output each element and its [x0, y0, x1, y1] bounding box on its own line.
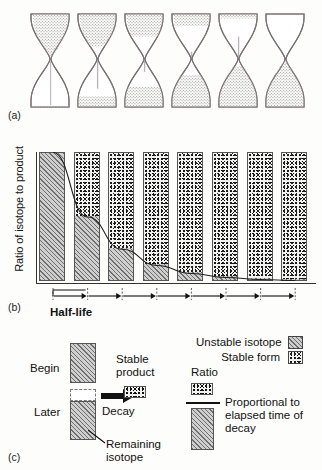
bar-halflife-5 [212, 152, 238, 281]
bar-halflife-3 [143, 152, 169, 281]
hourglass-5 [215, 12, 261, 109]
bar-halflife-4 [177, 152, 203, 281]
hourglass-2 [74, 12, 120, 109]
ratio-fraction-bar [186, 402, 220, 404]
stable-product-block [124, 386, 146, 398]
bar-segment-stable [282, 153, 306, 281]
bar-segment-stable [75, 153, 99, 218]
bar-segment-isotope [75, 216, 99, 281]
bar-segment-stable [213, 153, 237, 278]
ratio-label: Ratio [191, 366, 218, 378]
bar-segment-isotope [40, 152, 64, 280]
later-decayed-ghost-block [70, 389, 96, 401]
proportional-label-line2: elapsed time of [225, 409, 321, 422]
half-life-axis [36, 288, 318, 304]
panel-b-bar-chart: Ratio of isotope to product Half-life (b… [0, 130, 322, 320]
bar-segment-isotope [144, 264, 168, 280]
ratio-denominator-isotope-block [191, 408, 214, 450]
bar-halflife-0 [39, 152, 65, 281]
hourglass-3 [121, 12, 167, 109]
begin-label: Begin [30, 362, 59, 374]
panel-c-ratio-explainer: Begin Later Decay Stable product Remaini… [0, 352, 322, 470]
legend-swatch-unstable-isotope [288, 336, 303, 349]
remaining-isotope-label-line2: isotope [106, 451, 143, 463]
proportional-label-line3: decay [225, 422, 321, 435]
panel-a-hourglasses: (a) [0, 0, 322, 130]
bar-segment-isotope [178, 272, 202, 280]
bar-segment-isotope [109, 248, 133, 280]
hourglass-1 [27, 12, 73, 109]
later-label: Later [34, 406, 60, 418]
bar-halflife-7 [281, 152, 307, 281]
x-axis-line [36, 283, 316, 284]
panel-b-tag: (b) [8, 302, 21, 313]
hourglass-6 [262, 12, 308, 109]
legend-label-unstable: Unstable isotope [196, 336, 280, 348]
remaining-isotope-label-line1: Remaining [106, 438, 161, 450]
bar-segment-stable [178, 153, 202, 274]
half-life-label: Half-life [50, 306, 92, 318]
decay-label: Decay [102, 405, 135, 417]
bar-halflife-1 [74, 152, 100, 281]
bar-segment-stable [109, 153, 133, 250]
stable-product-label-line1: Stable [116, 353, 149, 365]
panel-c-tag: (c) [8, 452, 20, 463]
hourglass-4 [168, 12, 214, 109]
bar-segment-isotope [282, 279, 306, 280]
bar-segment-stable [248, 153, 272, 280]
bar-halflife-2 [108, 152, 134, 281]
proportional-label-line1: Proportional to [225, 396, 321, 409]
bars-container [37, 152, 315, 281]
bar-segment-isotope [248, 278, 272, 280]
ratio-numerator-stable-block [191, 383, 213, 395]
stable-product-label-line2: product [116, 366, 154, 378]
panel-a-tag: (a) [8, 110, 21, 121]
bar-segment-isotope [213, 276, 237, 280]
figure-root: (a) Ratio of isotope to product Half-lif… [0, 0, 322, 470]
bar-segment-stable [144, 153, 168, 266]
begin-isotope-block [70, 343, 96, 383]
bar-halflife-6 [247, 152, 273, 281]
y-axis-label: Ratio of isotope to product [14, 139, 26, 279]
